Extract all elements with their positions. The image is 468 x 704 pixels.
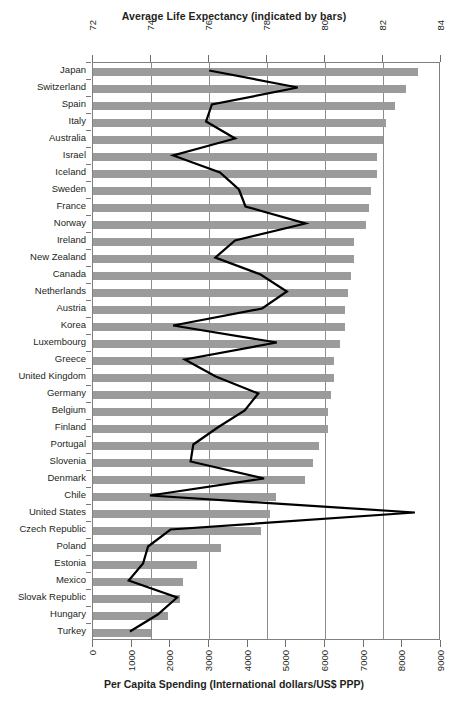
category-axis-tick — [86, 215, 91, 216]
category-label: Korea — [0, 320, 86, 330]
category-axis-tick — [86, 521, 91, 522]
category-axis-tick — [86, 623, 91, 624]
category-axis-tick — [86, 572, 91, 573]
category-label: Hungary — [0, 609, 86, 619]
category-label: Canada — [0, 269, 86, 279]
category-label: United Kingdom — [0, 371, 86, 381]
category-label: Switzerland — [0, 82, 86, 92]
bottom-axis-tick — [285, 640, 286, 647]
category-axis-tick — [86, 266, 91, 267]
category-axis-tick — [86, 147, 91, 148]
category-axis-tick — [86, 368, 91, 369]
bottom-axis-tick — [363, 640, 364, 647]
category-axis-tick — [86, 164, 91, 165]
category-axis-tick — [86, 385, 91, 386]
category-label: Luxembourg — [0, 337, 86, 347]
bottom-axis-tick-label: 0 — [87, 650, 98, 655]
category-label: France — [0, 201, 86, 211]
category-axis-tick — [86, 130, 91, 131]
chart-container: Average Life Expectancy (indicated by ba… — [0, 0, 468, 704]
category-label: Finland — [0, 422, 86, 432]
top-axis-tick-label: 80 — [319, 20, 330, 31]
top-axis-tick — [92, 55, 93, 62]
top-axis-tick — [324, 55, 325, 62]
category-axis-tick — [86, 538, 91, 539]
bottom-axis-tick — [208, 640, 209, 647]
category-axis-tick — [86, 402, 91, 403]
category-axis-tick — [86, 589, 91, 590]
top-axis-tick-label: 78 — [261, 20, 272, 31]
category-label: Slovak Republic — [0, 592, 86, 602]
bottom-axis-tick — [92, 640, 93, 647]
category-label: United States — [0, 507, 86, 517]
top-axis-tick-label: 76 — [203, 20, 214, 31]
category-axis-tick — [86, 198, 91, 199]
bottom-axis-tick-label: 9000 — [435, 650, 446, 671]
category-axis-tick — [86, 453, 91, 454]
top-axis-tick-label: 84 — [435, 20, 446, 31]
category-axis-tick — [86, 79, 91, 80]
category-axis-tick — [86, 487, 91, 488]
bottom-axis: 0100020003000400050006000700080009000 — [0, 640, 468, 680]
bottom-axis-tick-label: 4000 — [242, 650, 253, 671]
top-axis-tick — [266, 55, 267, 62]
bottom-axis-tick-label: 2000 — [164, 650, 175, 671]
category-label: Belgium — [0, 405, 86, 415]
category-label: Netherlands — [0, 286, 86, 296]
bottom-axis-tick — [440, 640, 441, 647]
top-axis-tick — [440, 55, 441, 62]
category-axis-tick — [86, 470, 91, 471]
top-axis-tick — [208, 55, 209, 62]
bottom-axis-tick — [401, 640, 402, 647]
category-label: Greece — [0, 354, 86, 364]
category-label: Iceland — [0, 167, 86, 177]
category-label: Poland — [0, 541, 86, 551]
bottom-axis-tick — [131, 640, 132, 647]
category-label: Portugal — [0, 439, 86, 449]
bottom-axis-tick-label: 5000 — [280, 650, 291, 671]
category-label: Mexico — [0, 575, 86, 585]
category-label: New Zealand — [0, 252, 86, 262]
category-axis-tick — [86, 62, 91, 63]
category-label: Japan — [0, 65, 86, 75]
category-axis-tick — [86, 334, 91, 335]
category-label: Turkey — [0, 626, 86, 636]
category-label: Austria — [0, 303, 86, 313]
category-label: Australia — [0, 133, 86, 143]
top-axis: 72747678808284 — [0, 0, 468, 62]
line-series — [92, 62, 440, 640]
bottom-axis-tick-label: 6000 — [319, 650, 330, 671]
category-axis-tick — [86, 351, 91, 352]
category-axis-tick — [86, 232, 91, 233]
category-label: Spain — [0, 99, 86, 109]
category-axis-tick — [86, 419, 91, 420]
category-axis-tick — [86, 113, 91, 114]
top-axis-tick — [150, 55, 151, 62]
bottom-axis-tick-label: 1000 — [126, 650, 137, 671]
category-axis-tick — [86, 436, 91, 437]
category-label: Chile — [0, 490, 86, 500]
category-axis-tick — [86, 317, 91, 318]
category-label: Estonia — [0, 558, 86, 568]
bottom-axis-tick — [169, 640, 170, 647]
category-label: Czech Republic — [0, 524, 86, 534]
category-axis-tick — [86, 96, 91, 97]
category-label: Ireland — [0, 235, 86, 245]
spending-polyline — [129, 71, 415, 632]
category-label: Sweden — [0, 184, 86, 194]
category-axis-tick — [86, 504, 91, 505]
top-axis-tick-label: 82 — [377, 20, 388, 31]
category-axis-tick — [86, 181, 91, 182]
top-axis-tick-label: 74 — [145, 20, 156, 31]
category-label: Slovenia — [0, 456, 86, 466]
bottom-axis-label: Per Capita Spending (International dolla… — [0, 678, 468, 690]
bottom-axis-tick-label: 7000 — [358, 650, 369, 671]
category-label: Norway — [0, 218, 86, 228]
bottom-axis-tick — [247, 640, 248, 647]
category-axis-tick — [86, 283, 91, 284]
category-axis-tick — [86, 555, 91, 556]
bottom-axis-tick — [324, 640, 325, 647]
category-label: Israel — [0, 150, 86, 160]
category-label: Italy — [0, 116, 86, 126]
bottom-axis-tick-label: 8000 — [396, 650, 407, 671]
